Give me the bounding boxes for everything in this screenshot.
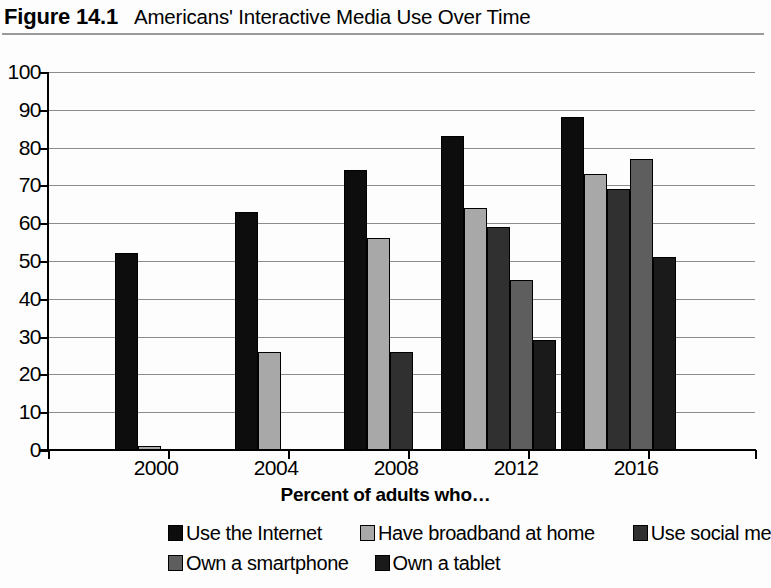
bar	[630, 159, 653, 450]
legend-item[interactable]: Use the Internet	[168, 522, 322, 545]
bar	[487, 227, 510, 450]
y-axis-tick-label: 30	[0, 326, 41, 347]
y-axis-tick-label: 10	[0, 401, 41, 422]
plot-area	[48, 72, 755, 450]
legend-item-label: Own a tablet	[393, 552, 501, 575]
legend-swatch-icon	[360, 525, 375, 541]
x-axis-title: Percent of adults who…	[0, 484, 771, 506]
y-axis-tick-label: 60	[0, 212, 41, 233]
legend-item-label: Have broadband at home	[378, 522, 595, 545]
bar	[533, 340, 556, 450]
x-axis-tick-label: 2008	[351, 456, 441, 480]
x-axis-tick-label: 2000	[111, 456, 201, 480]
bar	[367, 238, 390, 450]
legend-swatch-icon	[375, 555, 390, 571]
gridline	[48, 72, 755, 73]
bar	[584, 174, 607, 450]
bar	[258, 352, 281, 450]
legend-row-first: Use the InternetHave broadband at homeUs…	[0, 518, 771, 548]
legend-item-label: Own a smartphone	[186, 552, 349, 575]
legend-swatch-icon	[633, 525, 648, 541]
y-axis-tick-label: 20	[0, 363, 41, 384]
y-axis-tick-label: 90	[0, 99, 41, 120]
y-axis-line	[47, 72, 49, 452]
bar	[235, 212, 258, 450]
bar	[561, 117, 584, 450]
x-axis-tick-label: 2004	[231, 456, 321, 480]
bar	[464, 208, 487, 450]
bar	[653, 257, 676, 450]
legend-item-label: Use social media	[651, 522, 771, 545]
figure-number: Figure 14.1	[4, 4, 118, 30]
legend-item[interactable]: Have broadband at home	[360, 522, 595, 545]
x-axis-tick-label: 2016	[591, 456, 681, 480]
gridline	[48, 110, 755, 111]
legend-item[interactable]: Use social media	[633, 522, 771, 545]
bar	[115, 253, 138, 450]
x-axis-tick	[755, 450, 757, 459]
x-axis-tick	[48, 450, 50, 459]
header-divider	[2, 33, 764, 35]
bar	[390, 352, 413, 450]
y-axis-tick-label: 100	[0, 61, 41, 82]
legend-item[interactable]: Own a tablet	[375, 552, 501, 575]
gridline	[48, 148, 755, 149]
y-axis-tick-label: 0	[0, 439, 41, 460]
figure-title: Americans' Interactive Media Use Over Ti…	[134, 5, 531, 29]
figure-container: Figure 14.1 Americans' Interactive Media…	[0, 0, 771, 588]
bar	[510, 280, 533, 450]
bar	[344, 170, 367, 450]
x-axis-tick-label: 2012	[471, 456, 561, 480]
legend-swatch-icon	[168, 525, 183, 541]
figure-header: Figure 14.1 Americans' Interactive Media…	[0, 0, 771, 34]
bar	[607, 189, 630, 450]
y-axis-tick-label: 70	[0, 174, 41, 195]
bar	[441, 136, 464, 450]
y-axis-tick-label: 50	[0, 250, 41, 271]
y-axis-tick-label: 40	[0, 288, 41, 309]
legend-item[interactable]: Own a smartphone	[168, 552, 349, 575]
legend-swatch-icon	[168, 555, 183, 571]
legend-item-label: Use the Internet	[186, 522, 322, 545]
legend-row-second: Own a smartphoneOwn a tablet	[0, 548, 771, 578]
y-axis-tick-label: 80	[0, 137, 41, 158]
